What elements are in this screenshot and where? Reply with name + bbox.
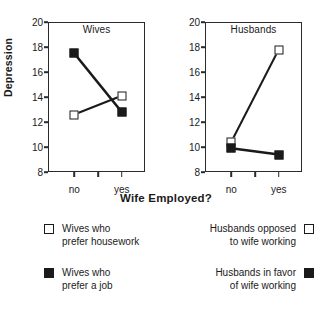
y-axis-title: Depression [2, 38, 14, 97]
filled-square-icon [44, 268, 54, 278]
legend-item: Husbands opposed to wife working [210, 222, 314, 248]
data-point-open-square [70, 110, 79, 119]
data-point-filled-square [70, 49, 79, 58]
data-point-filled-square [274, 150, 283, 159]
y-tick-label: 16 [174, 67, 200, 78]
y-tick-label: 10 [174, 142, 200, 153]
data-point-filled-square [117, 108, 126, 117]
series-lines-wives [48, 22, 145, 172]
filled-square-icon [304, 268, 314, 278]
x-tick-mark [73, 172, 75, 177]
y-tick-label: 20 [174, 17, 200, 28]
legend-item: Wives who prefer a job [44, 266, 113, 292]
y-tick-mark [201, 146, 205, 148]
y-tick-mark [44, 96, 48, 98]
y-tick-label: 18 [174, 42, 200, 53]
data-point-filled-square [227, 144, 236, 153]
series-lines-husbands [205, 22, 302, 172]
y-tick-label: 18 [17, 42, 43, 53]
y-tick-mark [201, 21, 205, 23]
legend: Wives who prefer housework Wives who pre… [0, 218, 332, 313]
y-tick-mark [44, 121, 48, 123]
x-tick-mark [121, 172, 123, 177]
legend-item: Husbands in favor of wife working [215, 266, 314, 292]
x-tick-mark [254, 172, 256, 177]
x-tick-mark [230, 172, 232, 177]
y-tick-mark [44, 46, 48, 48]
legend-label: Wives who prefer a job [62, 266, 113, 292]
legend-label: Husbands in favor of wife working [215, 266, 296, 292]
y-tick-label: 10 [17, 142, 43, 153]
y-tick-mark [44, 21, 48, 23]
panel-husbands: Husbands 2018161412108noyes [205, 22, 302, 172]
legend-item: Wives who prefer housework [44, 222, 139, 248]
y-tick-mark [201, 121, 205, 123]
y-tick-mark [201, 171, 205, 173]
y-tick-label: 12 [17, 117, 43, 128]
x-axis-title: Wife Employed? [0, 192, 332, 204]
y-tick-label: 14 [17, 92, 43, 103]
legend-label: Husbands opposed to wife working [210, 222, 296, 248]
y-tick-label: 8 [174, 167, 200, 178]
legend-label: Wives who prefer housework [62, 222, 139, 248]
open-square-icon [304, 224, 314, 234]
y-tick-mark [201, 96, 205, 98]
y-tick-label: 12 [174, 117, 200, 128]
y-tick-mark [201, 71, 205, 73]
x-tick-mark [278, 172, 280, 177]
y-tick-label: 20 [17, 17, 43, 28]
data-point-open-square [274, 45, 283, 54]
panel-wives: Wives 2018161412108noyes [48, 22, 145, 172]
interaction-plot-figure: Depression Wives 2018161412108noyes Husb… [0, 0, 332, 313]
y-tick-mark [201, 46, 205, 48]
open-square-icon [44, 224, 54, 234]
x-tick-mark [97, 172, 99, 177]
y-tick-mark [44, 146, 48, 148]
y-tick-mark [44, 71, 48, 73]
y-tick-label: 8 [17, 167, 43, 178]
y-tick-label: 16 [17, 67, 43, 78]
y-tick-mark [44, 171, 48, 173]
y-tick-label: 14 [174, 92, 200, 103]
data-point-open-square [117, 91, 126, 100]
